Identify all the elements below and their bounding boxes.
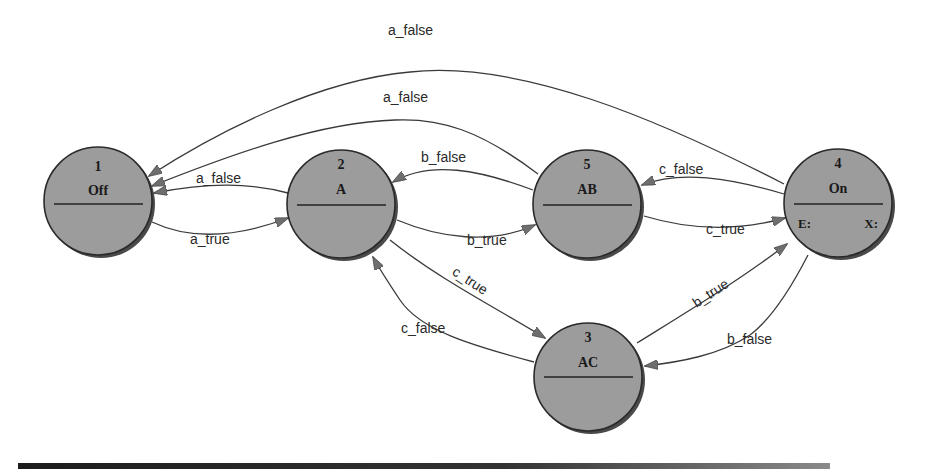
node-name: Off xyxy=(88,183,109,198)
edge-path xyxy=(154,185,288,193)
state-node-off[interactable]: 1 Off xyxy=(44,147,155,258)
node-id: 2 xyxy=(338,157,345,172)
edge-4-to-3: b_false xyxy=(645,255,808,366)
state-node-a[interactable]: 2 A xyxy=(287,150,398,261)
edge-5-to-4: c_true xyxy=(644,216,785,237)
edge-label: b_false xyxy=(421,149,466,165)
edge-label: c_false xyxy=(401,320,446,336)
edge-label: a_false xyxy=(383,89,428,105)
edge-label: a_true xyxy=(190,231,230,247)
state-diagram: a_false a_false a_false a_true b_false b… xyxy=(0,0,940,471)
node-entry-action: E: xyxy=(798,216,811,231)
edge-2-to-1: a_false xyxy=(154,170,288,193)
state-node-ab[interactable]: 5 AB xyxy=(533,150,644,261)
edge-label: a_false xyxy=(196,170,241,186)
node-name: A xyxy=(336,182,347,197)
node-id: 4 xyxy=(835,156,842,171)
edge-path xyxy=(397,220,535,237)
edge-label: c_false xyxy=(659,161,704,177)
edge-path xyxy=(393,170,533,190)
edge-label: c_true xyxy=(450,263,492,298)
edge-label: b_true xyxy=(689,275,731,310)
node-name: On xyxy=(829,181,848,196)
state-node-on[interactable]: 4 On E: X: xyxy=(784,149,895,260)
edge-label: b_true xyxy=(467,232,507,248)
edge-label: c_true xyxy=(706,221,745,237)
edge-path xyxy=(642,177,784,194)
edge-2-to-5: b_true xyxy=(397,220,535,248)
node-id: 5 xyxy=(584,157,591,172)
footer-rule xyxy=(18,463,830,469)
edge-4-to-5: c_false xyxy=(642,161,784,194)
node-exit-action: X: xyxy=(864,216,878,231)
node-name: AB xyxy=(577,182,596,197)
node-id: 3 xyxy=(585,330,592,345)
edge-1-to-2: a_true xyxy=(152,218,288,247)
state-node-ac[interactable]: 3 AC xyxy=(534,323,645,434)
edge-label: a_false xyxy=(388,22,433,38)
edge-4-to-1: a_false xyxy=(149,22,784,184)
edge-path xyxy=(645,255,808,366)
node-name: AC xyxy=(578,355,598,370)
edge-3-to-4: b_true xyxy=(637,244,787,343)
node-id: 1 xyxy=(95,159,102,174)
edge-label: b_false xyxy=(727,331,772,347)
